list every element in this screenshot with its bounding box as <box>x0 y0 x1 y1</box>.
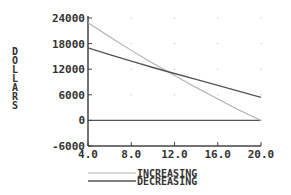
x-ticks: 4.08.012.016.020.0 <box>78 142 274 161</box>
series-line-increasing <box>88 23 261 121</box>
series-line-decreasing <box>88 48 261 98</box>
series <box>88 23 261 121</box>
grid-dot <box>217 18 218 19</box>
y-tick-label: 18000 <box>52 38 85 51</box>
y-tick-label: 0 <box>78 114 85 127</box>
grid-dot <box>131 94 132 95</box>
grid-dot <box>174 18 175 19</box>
y-axis-label: DOLLARS <box>12 46 19 111</box>
grid-dot <box>131 18 132 19</box>
grid-dot <box>261 69 262 70</box>
x-tick-label: 12.0 <box>161 148 188 161</box>
line-chart: DOLLARS 24000180001200060000-6000 4.08.0… <box>0 0 291 195</box>
grid-dot <box>174 69 175 70</box>
grid-dot <box>217 69 218 70</box>
x-tick-label: 16.0 <box>205 148 232 161</box>
x-tick-label: 4.0 <box>78 148 98 161</box>
grid-dots <box>131 18 262 121</box>
x-tick-label: 8.0 <box>121 148 141 161</box>
y-tick-label: 6000 <box>59 89 86 102</box>
legend-label-decreasing: DECREASING <box>137 176 197 187</box>
grid-dot <box>217 94 218 95</box>
grid-dot <box>261 43 262 44</box>
y-axis-label-letter: S <box>12 100 18 111</box>
grid-dot <box>131 43 132 44</box>
grid-dot <box>174 94 175 95</box>
y-tick-label: 12000 <box>52 63 85 76</box>
legend: INCREASINGDECREASING <box>88 168 197 187</box>
grid-dot <box>261 94 262 95</box>
x-tick-label: 20.0 <box>248 148 275 161</box>
axes <box>88 16 261 146</box>
y-tick-label: 24000 <box>52 12 85 25</box>
grid-dot <box>174 43 175 44</box>
grid-dot <box>261 18 262 19</box>
grid-dot <box>217 43 218 44</box>
y-ticks: 24000180001200060000-6000 <box>52 12 92 153</box>
grid-dot <box>131 69 132 70</box>
